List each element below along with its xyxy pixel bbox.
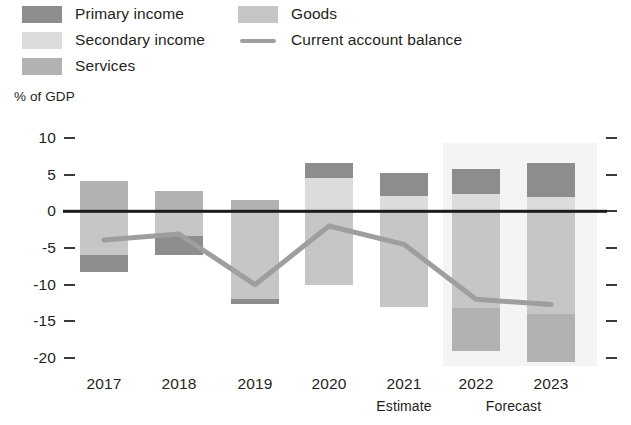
x-axis-note-forecast: Forecast bbox=[486, 398, 541, 414]
x-axis-tick-label-2019: 2019 bbox=[238, 375, 273, 393]
x-axis-tick-label-2020: 2020 bbox=[312, 375, 347, 393]
x-axis-tick-label-2021: 2021 bbox=[387, 375, 422, 393]
x-axis-tick-label-2023: 2023 bbox=[534, 375, 569, 393]
x-axis-tick-label-2017: 2017 bbox=[87, 375, 122, 393]
x-axis-note-estimate: Estimate bbox=[376, 398, 431, 414]
chart-figure: Primary income Secondary income Services… bbox=[0, 0, 631, 425]
x-axis-tick-label-2022: 2022 bbox=[459, 375, 494, 393]
zero-axis-line bbox=[63, 210, 607, 212]
x-axis-tick-label-2018: 2018 bbox=[162, 375, 197, 393]
plot-area: 1050-5-10-15-202017201820192020202120222… bbox=[0, 0, 631, 425]
